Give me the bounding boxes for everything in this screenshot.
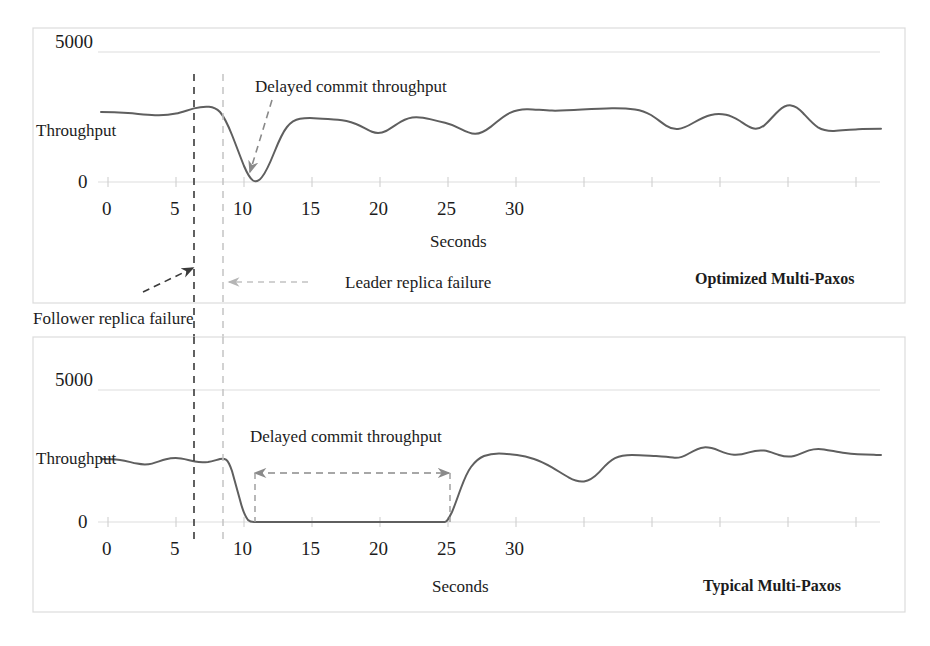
top-xtick-20: 20 <box>369 199 388 218</box>
top-x-axis-title: Seconds <box>430 233 487 250</box>
top-xtick-30: 30 <box>505 199 524 218</box>
bottom-xtick-20: 20 <box>369 539 388 558</box>
bottom-xtick-25: 25 <box>437 539 456 558</box>
bottom-y-axis-title: Throughput <box>36 450 116 467</box>
top-y-min-label: 0 <box>78 172 88 191</box>
delayed-commit-label-bottom: Delayed commit throughput <box>250 428 442 445</box>
top-panel-gridlines <box>98 52 880 182</box>
top-xtick-5: 5 <box>170 199 180 218</box>
follower-failure-arrow <box>143 268 193 292</box>
bottom-xtick-0: 0 <box>102 539 112 558</box>
top-y-max-label: 5000 <box>55 32 93 51</box>
figure-container: 5000 Throughput 0 0 5 10 15 20 25 30 Sec… <box>0 0 930 646</box>
bottom-xtick-30: 30 <box>505 539 524 558</box>
delayed-commit-arrow-top <box>250 100 272 172</box>
top-y-axis-title: Throughput <box>36 122 116 139</box>
top-xtick-10: 10 <box>233 199 252 218</box>
bottom-xtick-5: 5 <box>170 539 180 558</box>
leader-replica-failure-label: Leader replica failure <box>345 274 491 291</box>
follower-replica-failure-label: Follower replica failure <box>33 310 194 327</box>
top-xtick-15: 15 <box>301 199 320 218</box>
series-label-optimized: Optimized Multi-Paxos <box>695 271 855 287</box>
bottom-xtick-15: 15 <box>301 539 320 558</box>
throughput-curve-optimized <box>101 105 881 181</box>
throughput-curve-typical <box>101 447 881 522</box>
bottom-y-max-label: 5000 <box>55 370 93 389</box>
delayed-commit-label-top: Delayed commit throughput <box>255 78 447 95</box>
bottom-x-axis-title: Seconds <box>432 578 489 595</box>
bottom-xtick-10: 10 <box>233 539 252 558</box>
top-xtick-0: 0 <box>102 199 112 218</box>
top-panel-frame <box>33 28 905 303</box>
bottom-panel-gridlines <box>98 390 880 522</box>
top-xtick-25: 25 <box>437 199 456 218</box>
bottom-panel-frame <box>33 337 905 612</box>
series-label-typical: Typical Multi-Paxos <box>703 578 841 594</box>
bottom-y-min-label: 0 <box>78 512 88 531</box>
delayed-commit-span-bottom <box>255 473 450 522</box>
